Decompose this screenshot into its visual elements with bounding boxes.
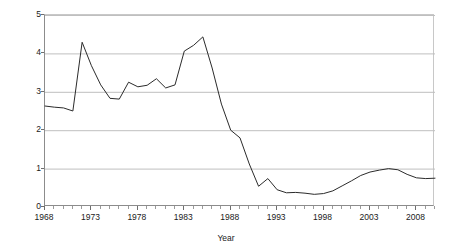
x-axis-tick xyxy=(388,206,389,209)
x-axis-tick xyxy=(202,206,203,209)
x-axis-tick-label: 1988 xyxy=(210,212,250,222)
x-axis-tick xyxy=(295,206,296,209)
x-axis-tick xyxy=(304,206,305,209)
x-axis-tick xyxy=(72,206,73,209)
y-axis-tick-label: 0 xyxy=(15,202,41,210)
y-axis-tick-label: 2 xyxy=(15,125,41,133)
y-axis-tick-label: 4 xyxy=(15,48,41,56)
x-axis-tick xyxy=(193,206,194,209)
x-axis-tick xyxy=(220,206,221,209)
y-axis-tick xyxy=(41,91,44,92)
x-axis-tick xyxy=(434,206,435,209)
x-axis-tick xyxy=(137,206,138,210)
x-axis-tick-label: 2003 xyxy=(349,212,389,222)
x-axis-tick xyxy=(230,206,231,210)
x-axis-tick xyxy=(174,206,175,209)
x-axis-tick-label: 1998 xyxy=(303,212,343,222)
x-axis-tick xyxy=(332,206,333,209)
y-axis-tick xyxy=(41,52,44,53)
x-axis-tick xyxy=(369,206,370,210)
x-axis-tick xyxy=(53,206,54,209)
x-axis-tick xyxy=(425,206,426,209)
data-line-per-capita xyxy=(45,37,435,194)
y-axis-tick-label: 1 xyxy=(15,164,41,172)
x-axis-title: Year xyxy=(0,233,452,243)
x-axis-tick xyxy=(44,206,45,210)
x-axis-tick xyxy=(155,206,156,209)
x-axis-tick xyxy=(183,206,184,210)
x-axis-tick xyxy=(406,206,407,209)
x-axis-tick xyxy=(313,206,314,209)
x-axis-tick xyxy=(378,206,379,209)
y-axis-tick xyxy=(41,129,44,130)
x-axis-tick-label: 1973 xyxy=(70,212,110,222)
x-axis-tick xyxy=(258,206,259,209)
x-axis-tick xyxy=(109,206,110,209)
gridlines xyxy=(45,16,435,170)
x-axis-tick xyxy=(350,206,351,209)
x-axis-tick-label: 1978 xyxy=(117,212,157,222)
series-layer xyxy=(45,15,435,207)
x-axis-tick xyxy=(81,206,82,209)
x-axis-tick-label: 1993 xyxy=(256,212,296,222)
x-axis-tick xyxy=(63,206,64,209)
chart-container: Per capita (chained 2009) S$ 012345 1968… xyxy=(0,0,452,252)
x-axis-tick xyxy=(267,206,268,209)
x-axis-tick xyxy=(323,206,324,210)
x-axis-tick xyxy=(128,206,129,209)
y-axis-tick xyxy=(41,14,44,15)
x-axis-tick xyxy=(397,206,398,209)
x-axis-tick xyxy=(118,206,119,209)
x-axis-tick xyxy=(248,206,249,209)
x-axis-tick xyxy=(100,206,101,209)
y-axis-tick xyxy=(41,168,44,169)
x-axis-tick xyxy=(211,206,212,209)
y-axis-tick-label: 3 xyxy=(15,87,41,95)
plot-area xyxy=(44,14,434,206)
x-axis-tick xyxy=(276,206,277,210)
x-axis-tick xyxy=(285,206,286,209)
x-axis-tick xyxy=(360,206,361,209)
x-axis-tick-label: 2008 xyxy=(395,212,435,222)
x-axis-tick xyxy=(90,206,91,210)
y-axis-tick-label: 5 xyxy=(15,10,41,18)
x-axis-tick xyxy=(341,206,342,209)
x-axis-tick xyxy=(415,206,416,210)
x-axis-tick-label: 1983 xyxy=(163,212,203,222)
x-axis-tick-label: 1968 xyxy=(24,212,64,222)
x-axis-tick xyxy=(239,206,240,209)
x-axis-tick xyxy=(146,206,147,209)
x-axis-tick xyxy=(165,206,166,209)
